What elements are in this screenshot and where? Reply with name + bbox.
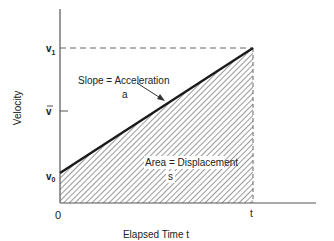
area-symbol: s <box>168 171 173 182</box>
area-label: Area = Displacement <box>145 157 238 168</box>
t-tick-label: t <box>250 208 253 219</box>
slope-symbol: a <box>122 89 128 100</box>
slope-arrowhead <box>157 94 165 101</box>
vbar-label: v <box>46 106 52 117</box>
v1-label: v1 <box>46 43 56 56</box>
slope-label: Slope = Acceleration <box>78 75 169 86</box>
origin-label: 0 <box>55 209 61 221</box>
x-axis-label: Elapsed Time t <box>123 229 189 240</box>
y-axis-label: Velocity <box>12 91 23 125</box>
v0-label: v0 <box>46 171 56 183</box>
displacement-area <box>60 48 253 203</box>
velocity-time-diagram: Velocity Elapsed Time t 0 t v1 v v0 Slop… <box>0 0 334 241</box>
